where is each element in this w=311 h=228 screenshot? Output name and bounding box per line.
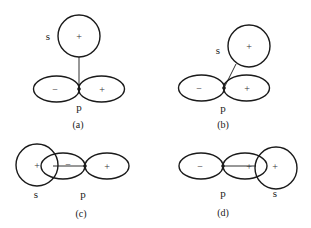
p-label: p (220, 102, 226, 114)
panel-a: + − + s p (a) (34, 15, 125, 131)
p-lobe-positive-sign: + (244, 83, 250, 94)
p-lobe-negative-sign: − (52, 84, 58, 95)
nucleus-dot (222, 86, 226, 90)
s-label: s (273, 187, 277, 199)
s-orbital-sign: + (34, 160, 40, 171)
p-label: p (80, 188, 86, 200)
p-lobe-negative-sign: − (196, 83, 202, 94)
orbital-overlap-diagram: + − + s p (a) + − + s p (b) + − + s p (c… (0, 0, 311, 228)
panel-caption: (d) (217, 207, 229, 219)
panel-d: − + + p s (d) (179, 147, 297, 219)
nucleus-dot (221, 164, 225, 168)
nucleus-dot (83, 164, 87, 168)
nucleus-dot (77, 87, 81, 91)
panel-caption: (a) (72, 119, 83, 131)
bond-axis-line (224, 64, 236, 88)
s-orbital-sign: + (76, 31, 82, 42)
panel-caption: (c) (75, 208, 86, 220)
s-label: s (46, 30, 50, 42)
p-label: p (220, 187, 226, 199)
panel-caption: (b) (217, 119, 229, 131)
p-lobe-negative-sign: − (65, 159, 71, 170)
s-label: s (216, 44, 220, 56)
p-lobe-negative-sign: − (197, 161, 203, 172)
p-lobe-positive-sign: + (246, 161, 252, 172)
s-orbital-sign: + (272, 161, 278, 172)
p-lobe-positive-sign: + (104, 161, 110, 172)
s-orbital-sign: + (246, 41, 252, 52)
p-label: p (76, 101, 82, 113)
p-lobe-positive-sign: + (99, 84, 105, 95)
panel-b: + − + s p (b) (179, 25, 271, 131)
s-label: s (34, 188, 38, 200)
panel-c: + − + s p (c) (16, 144, 129, 220)
